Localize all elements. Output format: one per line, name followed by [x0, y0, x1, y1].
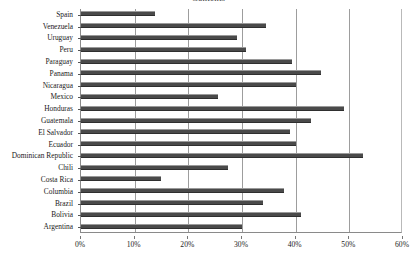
y-axis-tick	[78, 145, 81, 146]
bar	[81, 94, 218, 99]
bar	[81, 165, 228, 170]
y-axis-label: Argentina	[44, 223, 73, 231]
y-axis-tick	[78, 38, 81, 39]
y-axis-tick	[78, 133, 81, 134]
y-axis-label: Chili	[58, 164, 73, 172]
y-axis-label: Peru	[59, 46, 73, 54]
bar	[81, 11, 155, 16]
x-axis-tick	[402, 236, 403, 239]
bar	[81, 188, 284, 193]
y-axis-tick	[78, 204, 81, 205]
y-axis-tick	[78, 227, 81, 228]
bar	[81, 176, 161, 181]
y-axis-tick	[78, 192, 81, 193]
y-axis-label: El Salvador	[38, 129, 73, 137]
bar	[81, 153, 363, 158]
y-axis-label: Brazil	[55, 200, 73, 208]
x-axis-tick	[348, 236, 349, 239]
y-axis-label: Guatemala	[41, 117, 73, 125]
y-axis-tick	[78, 74, 81, 75]
y-axis-label: Honduras	[44, 105, 73, 113]
y-axis-tick	[78, 109, 81, 110]
x-axis-tick	[295, 236, 296, 239]
bar	[81, 118, 311, 123]
y-axis-tick	[78, 168, 81, 169]
y-axis-label: Bolivia	[51, 211, 73, 219]
bar	[81, 23, 266, 28]
bar	[81, 212, 301, 217]
bar-chart: Contents SpainVenezuelaUruguayPeruParagu…	[0, 0, 417, 255]
x-axis-tick-label: 60%	[395, 240, 409, 250]
bar	[81, 129, 290, 134]
y-axis-tick	[78, 215, 81, 216]
y-axis-label: Spain	[56, 11, 73, 19]
y-axis-tick	[78, 50, 81, 51]
x-axis-tick	[187, 236, 188, 239]
bar	[81, 70, 321, 75]
y-axis-tick	[78, 15, 81, 16]
y-axis-category-labels: SpainVenezuelaUruguayPeruParaguayPanamaN…	[0, 9, 76, 233]
chart-title: Contents	[0, 0, 417, 1]
y-axis-tick	[78, 62, 81, 63]
x-axis-tick-label: 50%	[341, 240, 355, 250]
y-axis-tick	[78, 180, 81, 181]
x-axis-tick-label: 10%	[127, 240, 141, 250]
bar	[81, 35, 237, 40]
plot-area	[80, 9, 402, 233]
x-axis-tick	[80, 236, 81, 239]
x-axis-tick-label: 40%	[288, 240, 302, 250]
x-axis-tick	[134, 236, 135, 239]
y-axis-label: Nicaragua	[43, 82, 73, 90]
y-axis-tick	[78, 27, 81, 28]
bar	[81, 141, 296, 146]
gridline	[349, 9, 350, 232]
y-axis-label: Venezuela	[43, 23, 73, 31]
y-axis-tick	[78, 121, 81, 122]
bar	[81, 47, 246, 52]
x-axis-tick-labels: 0%10%20%30%40%50%60%	[0, 236, 417, 250]
bar	[81, 106, 344, 111]
y-axis-tick	[78, 86, 81, 87]
x-axis-tick-label: 30%	[234, 240, 248, 250]
y-axis-label: Paraguay	[46, 58, 74, 66]
y-axis-tick	[78, 156, 81, 157]
bar	[81, 224, 242, 229]
y-axis-label: Panama	[50, 70, 73, 78]
x-axis-tick	[241, 236, 242, 239]
y-axis-label: Dominican Republic	[12, 152, 73, 160]
bar	[81, 200, 263, 205]
y-axis-label: Uruguay	[47, 34, 73, 42]
x-axis-tick-label: 0%	[75, 240, 85, 250]
bar	[81, 82, 296, 87]
bar	[81, 59, 292, 64]
x-axis-tick-label: 20%	[180, 240, 194, 250]
y-axis-label: Columbia	[44, 188, 73, 196]
y-axis-tick	[78, 97, 81, 98]
y-axis-label: Costa Rica	[41, 176, 73, 184]
y-axis-label: Ecuador	[48, 141, 73, 149]
y-axis-label: Mexico	[50, 93, 73, 101]
